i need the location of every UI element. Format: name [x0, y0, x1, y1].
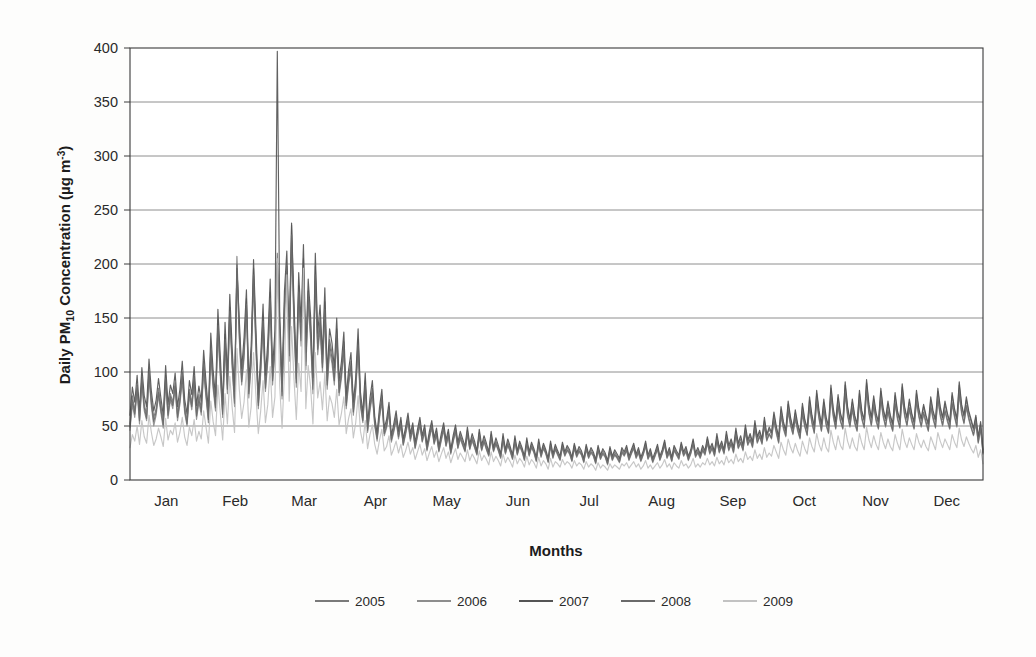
y-axis-title: Daily PM10 Concentration (µg m-3)	[56, 146, 76, 384]
x-tick-label-sep: Sep	[720, 492, 747, 509]
pm10-timeseries-figure: 050100150200250300350400 JanFebMarAprMay…	[0, 0, 1036, 657]
y-tick-label: 250	[94, 202, 118, 218]
y-tick-marks	[124, 48, 130, 480]
legend-label-2008: 2008	[661, 594, 691, 609]
chart-legend: 20052006200720082009	[315, 594, 793, 609]
y-tick-label: 50	[102, 418, 118, 434]
x-tick-label-apr: Apr	[364, 492, 387, 509]
x-tick-label-dec: Dec	[933, 492, 960, 509]
legend-label-2005: 2005	[355, 594, 385, 609]
y-tick-label: 150	[94, 310, 118, 326]
y-tick-label: 0	[110, 472, 118, 488]
legend-label-2009: 2009	[763, 594, 793, 609]
y-tick-label: 100	[94, 364, 118, 380]
x-tick-label-jan: Jan	[154, 492, 178, 509]
legend-label-2006: 2006	[457, 594, 487, 609]
x-tick-label-oct: Oct	[793, 492, 817, 509]
y-tick-label: 350	[94, 94, 118, 110]
x-tick-label-jun: Jun	[506, 492, 530, 509]
x-tick-label-aug: Aug	[648, 492, 675, 509]
x-tick-label-nov: Nov	[862, 492, 889, 509]
legend-label-2007: 2007	[559, 594, 589, 609]
x-tick-label-feb: Feb	[222, 492, 248, 509]
x-tick-label-mar: Mar	[291, 492, 317, 509]
chart-canvas: 050100150200250300350400 JanFebMarAprMay…	[0, 0, 1036, 657]
x-tick-labels: JanFebMarAprMayJunJulAugSepOctNovDec	[154, 492, 960, 509]
y-tick-label: 200	[94, 256, 118, 272]
y-tick-label: 300	[94, 148, 118, 164]
svg-text:Daily PM10 Concentration (µg m: Daily PM10 Concentration (µg m-3)	[56, 146, 76, 384]
x-axis-title: Months	[529, 542, 582, 559]
x-tick-label-jul: Jul	[580, 492, 599, 509]
y-tick-label: 400	[94, 40, 118, 56]
x-tick-label-may: May	[432, 492, 461, 509]
y-tick-labels: 050100150200250300350400	[94, 40, 118, 488]
